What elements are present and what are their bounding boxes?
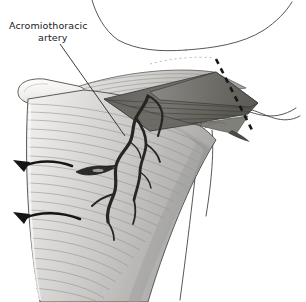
artery-label-line-1: Acromiothoracic xyxy=(9,20,88,32)
artery-label-line-2: artery xyxy=(38,32,67,44)
anatomical-illustration: Acromiothoracic artery xyxy=(0,0,306,302)
illustration-canvas xyxy=(0,0,306,302)
